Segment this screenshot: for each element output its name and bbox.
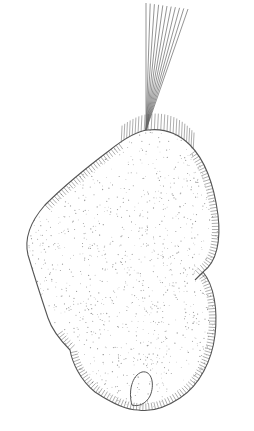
organism-drawing — [0, 0, 254, 431]
somatic-cilia — [45, 114, 219, 411]
contractile-vacuole — [130, 372, 152, 406]
organism-figure — [0, 0, 254, 431]
cell-body-outline — [27, 130, 219, 411]
body-stipple — [28, 130, 218, 408]
apical-cilia-tuft — [146, 3, 188, 130]
